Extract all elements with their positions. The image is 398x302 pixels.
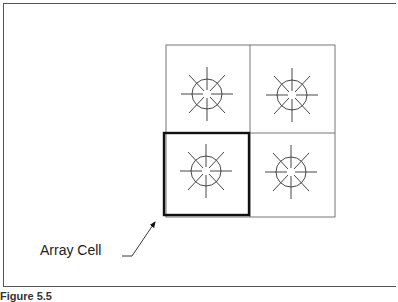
array-cell-label: Array Cell <box>40 242 101 258</box>
figure-caption: Figure 5.5 <box>0 290 52 302</box>
cell-symbol-icon <box>180 144 232 198</box>
cell-grid <box>166 45 335 217</box>
cell-symbol-icon <box>266 68 318 122</box>
cell-symbol-icon <box>265 145 317 199</box>
callout-leader-arrow <box>122 222 155 256</box>
highlighted-array-cell <box>164 133 249 215</box>
cell-symbol-icon <box>181 67 233 121</box>
